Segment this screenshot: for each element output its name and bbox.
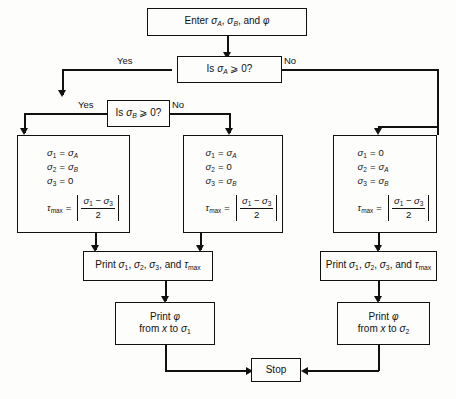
- assign-row: σ3=σB: [358, 174, 433, 188]
- subscript: 3: [363, 180, 367, 187]
- assign-row: σ2=0: [206, 161, 281, 175]
- tau-max-formula: τmax = σ1 − σ3 2: [358, 195, 433, 221]
- print-phi-left-line1: Print φ: [139, 311, 191, 324]
- subscript: 1: [363, 152, 367, 159]
- edge-phileft-to-stop-v: [165, 345, 167, 371]
- node-print-phi-left[interactable]: Print φ from x to σ1: [115, 302, 215, 345]
- print-phi-right-line1: Print φ: [358, 311, 410, 324]
- subscript: A: [384, 166, 388, 173]
- tau-label: τmax: [358, 202, 374, 215]
- edge-a-no-horizontal: [282, 69, 438, 71]
- edge-label-a-no: No: [284, 55, 296, 66]
- subscript: 2: [211, 166, 215, 173]
- fraction: σ1 − σ3 2: [240, 196, 274, 221]
- numerator: σ1 − σ3: [81, 196, 115, 209]
- edge-label-b-no: No: [172, 99, 184, 110]
- edge-phiright-to-stop-h: [306, 370, 379, 372]
- subscript: 2: [363, 166, 367, 173]
- edge-b-yes-horizontal: [24, 113, 107, 115]
- node-enter-inputs[interactable]: Enter σA, σB, and φ: [147, 8, 307, 36]
- assign-left-body: σ1=σA σ2=σB σ3=0 τmax = σ1 − σ3 2: [25, 147, 122, 222]
- value: 0: [68, 175, 73, 186]
- abs-bar-right: [428, 195, 429, 221]
- assign-left-list: σ1=σA σ2=σB σ3=0: [47, 147, 122, 189]
- edge-a-yes-horizontal: [62, 69, 172, 71]
- denominator: 2: [406, 209, 411, 221]
- assign-row: σ1=0: [358, 147, 433, 161]
- node-print-phi-right[interactable]: Print φ from x to σ2: [337, 302, 430, 345]
- subscript: 2: [53, 166, 57, 173]
- node-decision-sigma-b[interactable]: Is σB ⩾ 0?: [107, 100, 170, 127]
- print-phi-right-text: Print φ from x to σ2: [358, 311, 410, 337]
- arrowhead-assign-left: [20, 128, 28, 135]
- assign-right-list: σ1=0 σ2=σA σ3=σB: [358, 147, 433, 189]
- denominator: 2: [96, 209, 101, 221]
- numerator: σ1 − σ3: [240, 196, 274, 209]
- subscript: 1: [211, 152, 215, 159]
- subscript: 2: [405, 328, 409, 335]
- subscript: B: [74, 166, 78, 173]
- node-assign-middle[interactable]: σ1=σA σ2=0 σ3=σB τmax = σ1 − σ3 2: [183, 135, 283, 233]
- tau-max-formula: τmax = σ1 − σ3 2: [206, 195, 281, 221]
- phi-symbol: φ: [263, 15, 270, 26]
- phi-symbol: φ: [392, 311, 399, 322]
- subscript: B: [232, 180, 236, 187]
- node-print-results-right[interactable]: Print σ1, σ2, σ3, and τmax: [320, 251, 437, 281]
- assign-row: σ2=σA: [358, 161, 433, 175]
- fraction: σ1 − σ3 2: [392, 196, 426, 221]
- abs-bar-right: [276, 195, 277, 221]
- node-assign-left[interactable]: σ1=σA σ2=σB σ3=0 τmax = σ1 − σ3 2: [17, 135, 130, 233]
- subscript: A: [232, 152, 236, 159]
- subscript: 1: [187, 328, 191, 335]
- subscript: 1: [53, 152, 57, 159]
- phi-symbol: φ: [173, 311, 180, 322]
- subscript: 3: [211, 180, 215, 187]
- print-left-text: Print σ1, σ2, σ3, and τmax: [95, 259, 201, 272]
- tau-label: τmax: [206, 202, 222, 215]
- abs-bar-right: [118, 195, 119, 221]
- decision-a-text: Is σA ⩾ 0?: [207, 63, 253, 76]
- edge-phiright-to-stop-v: [378, 345, 380, 371]
- node-decision-sigma-a[interactable]: Is σA ⩾ 0?: [177, 56, 282, 83]
- assign-row: σ1=σA: [206, 147, 281, 161]
- edge-phileft-to-stop-h: [165, 370, 250, 372]
- numerator: σ1 − σ3: [392, 196, 426, 209]
- assign-row: σ2=σB: [47, 161, 122, 175]
- arrowhead-decision-b: [58, 90, 66, 97]
- node-assign-right[interactable]: σ1=0 σ2=σA σ3=σB τmax = σ1 − σ3 2: [333, 135, 437, 233]
- print-right-text: Print σ1, σ2, σ3, and τmax: [326, 259, 432, 272]
- print-phi-left-text: Print φ from x to σ1: [139, 311, 191, 337]
- abs-bar-left: [236, 195, 237, 221]
- abs-bar-left: [77, 195, 78, 221]
- print-phi-left-line2: from x to σ1: [139, 323, 191, 336]
- arrowhead-assign-mid: [225, 128, 233, 135]
- print-phi-right-line2: from x to σ2: [358, 323, 410, 336]
- subscript: 3: [53, 180, 57, 187]
- value: 0: [226, 161, 231, 172]
- edge-b-no-horizontal: [170, 113, 231, 115]
- assign-row: σ1=σA: [47, 147, 122, 161]
- edge-a-no-to-assign-right: [378, 126, 438, 128]
- tau-label: τmax: [47, 202, 63, 215]
- assign-middle-list: σ1=σA σ2=0 σ3=σB: [206, 147, 281, 189]
- arrowhead-assign-right: [374, 128, 382, 135]
- decision-b-text: Is σB ⩾ 0?: [116, 107, 162, 120]
- assign-right-body: σ1=0 σ2=σA σ3=σB τmax = σ1 − σ3 2: [338, 147, 433, 222]
- value: 0: [378, 147, 383, 158]
- tau-max-formula: τmax = σ1 − σ3 2: [47, 195, 122, 221]
- node-stop[interactable]: Stop: [251, 358, 301, 382]
- assign-row: σ3=0: [47, 174, 122, 188]
- node-print-results-left[interactable]: Print σ1, σ2, σ3, and τmax: [83, 251, 213, 281]
- stop-label: Stop: [266, 364, 287, 377]
- fraction: σ1 − σ3 2: [81, 196, 115, 221]
- edge-label-b-yes: Yes: [78, 99, 94, 110]
- arrowhead-stop-right: [301, 367, 308, 375]
- subscript: A: [74, 152, 78, 159]
- assign-row: σ3=σB: [206, 174, 281, 188]
- enter-text: Enter σA, σB, and φ: [185, 15, 270, 28]
- flowchart-canvas: Yes No Yes No Enter σA, σB, and φ Is σA …: [0, 0, 456, 399]
- assign-middle-body: σ1=σA σ2=0 σ3=σB τmax = σ1 − σ3 2: [186, 147, 281, 222]
- subscript: B: [384, 180, 388, 187]
- abs-bar-left: [388, 195, 389, 221]
- denominator: 2: [254, 209, 259, 221]
